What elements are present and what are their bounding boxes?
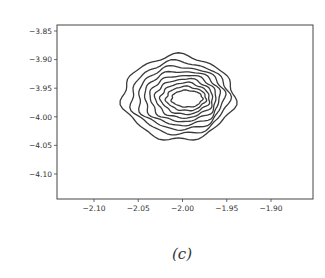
y-tick-label: −4.00: [29, 113, 52, 122]
y-axis: −3.85−3.90−3.95−4.00−4.05−4.10: [29, 27, 57, 179]
x-tick-label: −2.05: [127, 204, 150, 213]
x-tick-label: −2.10: [83, 204, 106, 213]
x-tick-label: −1.95: [215, 204, 238, 213]
figure-caption: (c): [172, 245, 192, 263]
x-axis: −2.10−2.05−2.00−1.95−1.90: [83, 199, 283, 213]
contour-level: [171, 90, 203, 107]
contour-chart: −3.85−3.90−3.95−4.00−4.05−4.10 −2.10−2.0…: [0, 0, 325, 278]
plot-frame: [57, 25, 313, 199]
y-tick-label: −3.95: [29, 84, 52, 93]
x-tick-label: −2.00: [171, 204, 194, 213]
x-tick-label: −1.90: [260, 204, 283, 213]
contour-lines: [120, 53, 237, 140]
y-tick-label: −4.05: [29, 141, 52, 150]
y-tick-label: −3.85: [29, 27, 52, 36]
y-tick-label: −3.90: [29, 55, 52, 64]
y-tick-label: −4.10: [29, 170, 52, 179]
contour-level: [154, 79, 212, 119]
